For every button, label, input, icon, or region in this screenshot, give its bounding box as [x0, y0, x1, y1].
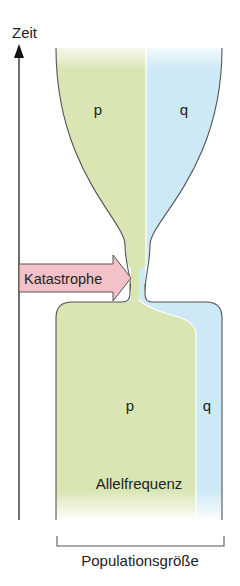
- time-axis-label: Zeit: [12, 24, 38, 41]
- bottleneck-diagram: Zeit p q p q: [0, 0, 240, 586]
- population-size-label: Populationsgröße: [81, 552, 199, 569]
- upper-population: [50, 40, 230, 280]
- allele-p-label-upper: p: [94, 101, 102, 118]
- catastrophe-label: Katastrophe: [24, 271, 102, 287]
- allele-frequency-label: Allelfrequenz: [96, 475, 183, 492]
- population-size-bracket: [57, 536, 224, 546]
- allele-q-region-upper: [146, 40, 226, 280]
- allele-p-region-upper: [50, 40, 146, 280]
- allele-q-label-lower: q: [203, 397, 211, 414]
- arrow-up-icon: [14, 44, 24, 58]
- allele-p-label-lower: p: [126, 397, 134, 414]
- allele-q-label-upper: q: [180, 101, 188, 118]
- lower-population: [50, 300, 230, 530]
